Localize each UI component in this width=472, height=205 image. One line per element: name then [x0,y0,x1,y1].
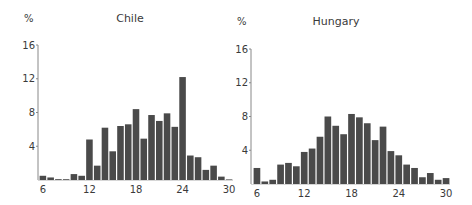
histogram-bar [40,176,47,180]
y-tick-label: 12 [236,77,248,88]
histogram-bar [269,180,276,184]
histogram-bar [419,177,426,184]
x-tick-label: 12 [298,188,311,199]
histogram-bar [435,180,442,184]
histogram-bar [94,166,101,180]
histogram-bar [133,109,140,180]
histogram-bar [195,157,202,180]
histogram-bar [218,177,225,180]
x-tick-label: 18 [130,184,143,195]
histogram-bar [364,123,371,184]
hungary-chart: %Hungary481216612182430 [236,0,472,205]
histogram-bar [109,151,116,180]
x-tick-label: 24 [176,184,189,195]
y-tick-label: 8 [242,111,248,122]
histogram-bar [148,115,155,180]
histogram-bar [187,156,194,180]
histogram-bar [254,168,261,184]
histogram-bar [226,179,233,180]
histogram-bar [261,181,268,184]
histogram-bar [63,179,70,180]
y-tick-label: 16 [22,40,35,51]
histogram-bar [443,178,450,184]
y-tick-label: 12 [22,73,35,84]
histogram-bar [172,127,179,180]
histogram-bar [179,77,186,180]
y-tick-label: 16 [236,44,248,55]
x-tick-label: 18 [345,188,358,199]
x-tick-label: 24 [392,188,405,199]
histogram-bar [164,113,171,180]
chile-chart: %Chile481216612182430 [0,0,236,205]
histogram-bar [332,126,339,184]
histogram-bar [47,177,54,180]
histogram-bar [356,117,363,184]
histogram-bar [156,121,163,180]
x-tick-label: 6 [40,184,46,195]
y-tick-label: 8 [29,107,35,118]
y-tick-label: 4 [242,145,248,156]
histogram-bar [301,152,308,184]
histogram-bar [125,124,132,180]
histogram-bar [395,155,402,184]
histogram-bar [117,126,124,180]
histogram-bar [293,166,300,184]
histogram-bar [317,137,324,184]
y-tick-label: 4 [29,141,35,152]
y-unit-label: % [237,16,247,27]
x-tick-label: 12 [83,184,96,195]
histogram-bar [102,128,109,180]
x-tick-label: 30 [440,188,453,199]
x-tick-label: 30 [223,184,236,195]
histogram-bar [427,173,434,184]
histogram-bar [78,176,85,180]
histogram-bar [325,117,332,185]
chile-chart-svg: %Chile481216612182430 [0,0,236,205]
histogram-bar [372,140,379,184]
chart-title: Hungary [313,15,360,28]
histogram-bar [380,127,387,184]
histogram-bar [340,134,347,184]
histogram-bar [210,166,217,180]
chart-title: Chile [116,12,144,25]
histogram-bar [411,168,418,184]
histogram-bar [71,174,78,180]
histogram-bar [309,149,316,184]
histogram-bar [140,139,147,180]
histogram-bar [285,163,292,184]
histogram-bar [388,151,395,184]
y-unit-label: % [24,13,34,24]
hungary-chart-svg: %Hungary481216612182430 [236,0,472,205]
histogram-bar [203,170,210,180]
histogram-bar [403,165,410,184]
histogram-bar [86,140,93,181]
histogram-bar [277,165,284,184]
histogram-bar [348,114,355,184]
x-tick-label: 6 [254,188,260,199]
histogram-bar [55,179,62,180]
